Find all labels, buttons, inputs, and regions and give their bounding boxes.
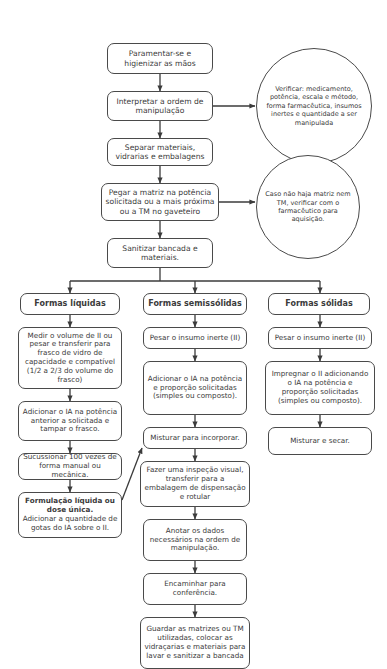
process-node-adicionar-ia-frasco[interactable]: Adicionar o IA na potência anterior a so… xyxy=(18,401,122,441)
process-node-misturar-incorporar[interactable]: Misturar para incorporar. xyxy=(143,427,247,449)
process-node-separar-materiais[interactable]: Separar materiais, vidrarias e embalagen… xyxy=(107,138,213,166)
node-label-bold: Formulação líquida ou dose única. xyxy=(25,496,115,514)
process-node-interpretar-ordem[interactable]: Interpretar a ordem de manipulação xyxy=(107,91,213,121)
process-node-pesar-insumo-inerte-semi[interactable]: Pesar o insumo inerte (II) xyxy=(143,327,247,349)
column-header-label: Formas semissólidas xyxy=(147,299,243,309)
node-label: Pesar o insumo inerte (II) xyxy=(147,334,243,343)
node-label: Medir o volume de II ou pesar e transfer… xyxy=(22,332,118,385)
node-label: Sucussionar 100 vezes de forma manual ou… xyxy=(22,453,118,479)
process-node-sanitizar-bancada[interactable]: Sanitizar bancada e materiais. xyxy=(107,238,213,268)
node-label: Sanitizar bancada e materiais. xyxy=(111,244,209,263)
column-header-label: Formas líquidas xyxy=(24,299,116,309)
node-label: Adicionar o IA na potência anterior a so… xyxy=(22,408,118,434)
node-label: Adicionar o IA na potência e proporção s… xyxy=(147,375,243,401)
note-label: Verificar: medicamento, potência, escala… xyxy=(261,85,367,127)
column-header-label: Formas sólidas xyxy=(272,299,366,309)
process-node-impregnar-ii[interactable]: Impregnar o II adicionando o IA na potên… xyxy=(265,361,375,415)
process-node-pegar-matriz[interactable]: Pegar a matriz na potência solicitada ou… xyxy=(101,183,219,221)
column-header-formas-liquidas[interactable]: Formas líquidas xyxy=(20,293,120,315)
column-header-formas-semissolidas[interactable]: Formas semissólidas xyxy=(143,293,247,315)
node-label-rest: Adicionar a quantidade de gotas do IA so… xyxy=(22,515,118,533)
note-circle-matriz-tm[interactable]: Caso não haja matriz nem TM, verificar c… xyxy=(256,155,360,259)
column-header-formas-solidas[interactable]: Formas sólidas xyxy=(268,293,370,315)
note-label: Caso não haja matriz nem TM, verificar c… xyxy=(261,190,355,224)
node-label: Misturar para incorporar. xyxy=(147,434,243,443)
process-node-encaminhar-conferencia[interactable]: Encaminhar para conferência. xyxy=(143,573,247,605)
process-node-sucussionar[interactable]: Sucussionar 100 vezes de forma manual ou… xyxy=(18,453,122,480)
process-node-guardar-matrizes[interactable]: Guardar as matrizes ou TM utilizadas, co… xyxy=(140,617,250,669)
node-label: Pegar a matriz na potência solicitada ou… xyxy=(105,188,215,216)
node-label: Encaminhar para conferência. xyxy=(147,580,243,598)
node-label: Pesar o insumo inerte (II) xyxy=(272,334,368,343)
node-label: Guardar as matrizes ou TM utilizadas, co… xyxy=(144,625,246,660)
note-circle-verificar[interactable]: Verificar: medicamento, potência, escala… xyxy=(256,48,372,164)
process-node-inspecao-visual[interactable]: Fazer uma inspeção visual, transferir pa… xyxy=(140,461,250,507)
node-label: Impregnar o II adicionando o IA na potên… xyxy=(269,370,371,405)
process-node-formulacao-liquida-dose-unica[interactable]: Formulação líquida ou dose única. Adicio… xyxy=(18,492,122,538)
process-node-anotar-dados[interactable]: Anotar os dados necessários na ordem de … xyxy=(143,519,247,561)
process-node-medir-volume[interactable]: Medir o volume de II ou pesar e transfer… xyxy=(18,327,122,389)
node-label: Interpretar a ordem de manipulação xyxy=(111,97,209,116)
node-label: Separar materiais, vidrarias e embalagen… xyxy=(111,143,209,162)
node-label: Formulação líquida ou dose única. Adicio… xyxy=(22,497,118,532)
process-node-paramentar[interactable]: Paramentar-se e higienizar as mãos xyxy=(107,43,213,74)
node-label: Fazer uma inspeção visual, transferir pa… xyxy=(144,466,246,501)
process-node-pesar-insumo-inerte-solido[interactable]: Pesar o insumo inerte (II) xyxy=(268,327,372,349)
node-label: Paramentar-se e higienizar as mãos xyxy=(111,49,209,68)
node-label: Anotar os dados necessários na ordem de … xyxy=(147,527,243,553)
node-label: Misturar e secar. xyxy=(272,437,368,446)
process-node-adicionar-ia-semi[interactable]: Adicionar o IA na potência e proporção s… xyxy=(143,361,247,415)
process-node-misturar-secar[interactable]: Misturar e secar. xyxy=(268,427,372,455)
